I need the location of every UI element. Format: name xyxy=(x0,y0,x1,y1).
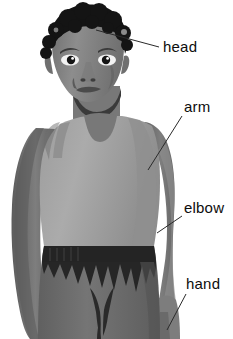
figure-illustration: head arm elbow hand xyxy=(0,0,233,339)
label-head: head xyxy=(163,38,197,55)
label-arm: arm xyxy=(184,98,210,115)
pants xyxy=(38,246,160,339)
body-parts-diagram: head arm elbow hand xyxy=(0,0,233,339)
torso-tank-top xyxy=(40,113,160,246)
label-elbow: elbow xyxy=(184,199,224,216)
label-hand: hand xyxy=(186,275,220,292)
